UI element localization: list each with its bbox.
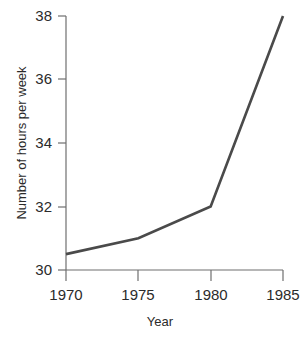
x-tick-label-1970: 1970	[49, 286, 82, 303]
data-series-line	[66, 16, 283, 254]
y-tick-label-36: 36	[35, 70, 52, 87]
y-tick-label-34: 34	[35, 134, 52, 151]
y-tick-label-38: 38	[35, 7, 52, 24]
line-chart: 38 36 34 32 30 1970 1975 1980 1985 Year …	[0, 0, 306, 346]
chart-canvas: 38 36 34 32 30 1970 1975 1980 1985 Year …	[0, 0, 306, 346]
y-axis-title: Number of hours per week	[14, 66, 29, 220]
y-tick-label-30: 30	[35, 261, 52, 278]
x-tick-label-1985: 1985	[266, 286, 299, 303]
y-tick-label-32: 32	[35, 198, 52, 215]
x-tick-label-1980: 1980	[194, 286, 227, 303]
x-axis-title: Year	[147, 314, 174, 329]
x-tick-label-1975: 1975	[121, 286, 154, 303]
